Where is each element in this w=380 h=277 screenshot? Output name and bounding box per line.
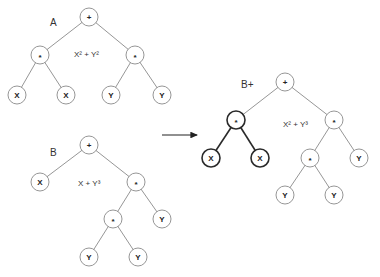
tree-node-multiply: * (104, 210, 122, 228)
tree-node-plus: + (276, 73, 294, 91)
tree-node-var-y: Y (80, 248, 98, 266)
tree-node-var-y: Y (129, 248, 147, 266)
tree-node-var-x: X (8, 86, 26, 104)
tree-diagram: +**XXYY+X**YYY+**XX*YYY AX² + Y²BX + Y³B… (0, 0, 380, 277)
tree-node-var-x: X (202, 149, 220, 167)
tree-label: B+ (241, 79, 254, 90)
node-label: + (87, 141, 92, 150)
tree-label: A (50, 17, 57, 28)
node-label: Y (356, 154, 362, 163)
nodes-layer: +**XXYY+X**YYY+**XX*YYY (8, 8, 368, 266)
tree-expression: X + Y³ (78, 179, 101, 188)
edges-layer (17, 17, 359, 257)
tree-node-multiply: * (31, 46, 49, 64)
labels-layer: AX² + Y²BX + Y³B+X² + Y³ (50, 17, 308, 188)
node-label: Y (108, 91, 114, 100)
tree-node-var-y: Y (153, 210, 171, 228)
node-label: X (37, 178, 43, 187)
tree-node-multiply: * (301, 149, 319, 167)
tree-node-var-x: X (251, 149, 269, 167)
tree-node-var-y: Y (350, 149, 368, 167)
tree-label: B (50, 147, 57, 158)
node-label: X (257, 154, 263, 163)
tree-node-var-y: Y (276, 186, 294, 204)
node-label: X (14, 91, 20, 100)
tree-node-multiply: * (127, 173, 145, 191)
tree-node-multiply: * (227, 111, 245, 129)
node-label: + (87, 13, 92, 22)
tree-node-var-x: X (57, 86, 75, 104)
tree-node-plus: + (80, 136, 98, 154)
tree-node-var-y: Y (102, 86, 120, 104)
node-label: Y (135, 253, 141, 262)
node-label: X (208, 154, 214, 163)
node-label: Y (159, 91, 165, 100)
node-label: X (63, 91, 69, 100)
tree-node-multiply: * (325, 111, 343, 129)
tree-expression: X² + Y² (74, 50, 99, 59)
tree-node-multiply: * (126, 46, 144, 64)
tree-node-var-y: Y (153, 86, 171, 104)
node-label: Y (159, 215, 165, 224)
tree-node-var-y: Y (325, 186, 343, 204)
node-label: Y (331, 191, 337, 200)
tree-expression: X² + Y³ (283, 120, 308, 129)
tree-node-plus: + (80, 8, 98, 26)
node-label: Y (282, 191, 288, 200)
node-label: Y (86, 253, 92, 262)
node-label: + (283, 78, 288, 87)
tree-node-var-x: X (31, 173, 49, 191)
